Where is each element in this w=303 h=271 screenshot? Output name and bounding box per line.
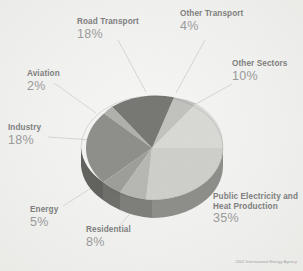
label-residential-name: Residential [86, 226, 131, 235]
label-other-sectors-name: Other Sectors [232, 60, 287, 69]
label-industry-value: 18% [8, 134, 41, 148]
label-other-sectors-value: 10% [232, 70, 287, 84]
label-public-electricity-and-heat-production: Public Electricity and Heat Production 3… [213, 192, 298, 226]
label-aviation: Aviation 2% [27, 70, 60, 93]
label-other-sectors: Other Sectors 10% [232, 60, 287, 83]
pie-chart-graphic [0, 0, 303, 271]
label-other-transport: Other Transport 4% [180, 10, 243, 33]
label-public-electricity-name-line1: Public Electricity and [213, 192, 298, 202]
label-energy-name: Energy [30, 206, 58, 215]
label-aviation-value: 2% [27, 80, 60, 94]
label-residential-value: 8% [86, 236, 131, 250]
label-road-transport-value: 18% [77, 28, 139, 42]
leader-line-industry [48, 137, 93, 140]
label-road-transport-name: Road Transport [77, 18, 139, 27]
leader-line-road-transport [118, 40, 146, 92]
label-industry: Industry 18% [8, 124, 41, 147]
leader-line-other-transport [176, 40, 205, 93]
label-public-electricity-name-line2: Heat Production [213, 202, 298, 212]
copyright-credit: 2002 International Energy Agency [235, 260, 297, 264]
label-public-electricity-value: 35% [213, 212, 298, 226]
label-energy: Energy 5% [30, 206, 58, 229]
label-other-transport-name: Other Transport [180, 10, 243, 19]
label-aviation-name: Aviation [27, 70, 60, 79]
leader-line-aviation [54, 83, 96, 113]
pie-chart-figure: Road Transport 18% Other Transport 4% Ot… [0, 0, 303, 271]
label-residential: Residential 8% [86, 226, 131, 249]
label-other-transport-value: 4% [180, 20, 243, 34]
label-industry-name: Industry [8, 124, 41, 133]
leader-line-other-sectors [196, 84, 232, 104]
label-road-transport: Road Transport 18% [77, 18, 139, 41]
label-energy-value: 5% [30, 216, 58, 230]
